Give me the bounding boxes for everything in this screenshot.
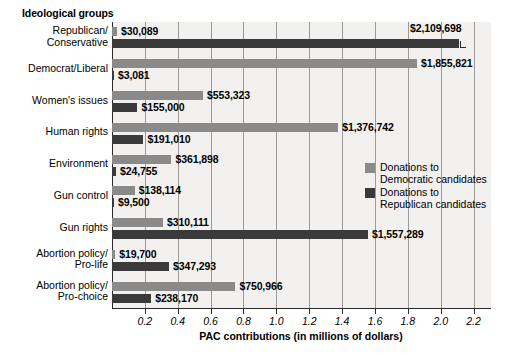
x-tick-mark <box>211 309 212 314</box>
bar-value-democratic: $138,114 <box>139 184 181 196</box>
bar-value-democratic: $553,323 <box>207 89 250 101</box>
x-tick-label: 1.4 <box>335 315 350 327</box>
bar-republican <box>112 135 143 144</box>
bar-republican <box>112 103 137 112</box>
x-tick-label: 0.8 <box>236 315 251 327</box>
bar-republican <box>112 71 114 80</box>
bar-democratic <box>112 218 163 227</box>
bar-democratic <box>112 91 203 100</box>
bar-value-democratic: $310,111 <box>167 216 209 228</box>
x-tick-mark <box>145 309 146 314</box>
category-label-line: Human rights <box>0 126 108 138</box>
x-tick-mark <box>309 309 310 314</box>
legend-label-line: Democratic candidates <box>380 174 487 186</box>
bar-democratic <box>112 186 135 195</box>
bar-value-republican: $24,755 <box>120 165 157 177</box>
legend-label-line: Donations to <box>380 162 487 174</box>
x-tick-label: 1.8 <box>401 315 416 327</box>
bar-republican <box>112 262 169 271</box>
legend-item: Donations toDemocratic candidates <box>365 162 487 185</box>
leader-line <box>460 41 466 48</box>
legend-label: Donations toDemocratic candidates <box>380 162 487 185</box>
legend-swatch-dem <box>365 163 375 173</box>
bar-republican <box>112 198 114 207</box>
category-label: Human rights <box>0 126 108 138</box>
x-tick-mark <box>276 309 277 314</box>
bar-value-republican: $2,109,698 <box>410 22 462 34</box>
bar-value-democratic: $1,855,821 <box>421 57 473 69</box>
x-tick-label: 0.6 <box>203 315 218 327</box>
bar-republican <box>112 167 116 176</box>
category-label: Abortion policy/Pro-choice <box>0 280 108 303</box>
category-label-line: Women's issues <box>0 95 108 107</box>
x-tick-label: 0.4 <box>170 315 185 327</box>
category-label-line: Pro-choice <box>0 291 108 303</box>
bar-value-democratic: $19,700 <box>119 248 156 260</box>
x-tick-mark <box>243 309 244 314</box>
y-axis-title: Ideological groups <box>22 7 114 19</box>
bar-republican <box>112 39 459 48</box>
bar-value-democratic: $361,898 <box>175 153 218 165</box>
category-label: Women's issues <box>0 95 108 107</box>
legend: Donations toDemocratic candidatesDonatio… <box>365 162 487 212</box>
bar-democratic <box>112 123 338 132</box>
bar-republican <box>112 230 368 239</box>
x-tick-mark <box>441 309 442 314</box>
pac-contributions-bar-chart: Ideological groups 0.20.40.60.81.01.21.4… <box>0 0 510 355</box>
category-label: Gun rights <box>0 222 108 234</box>
bar-value-republican: $191,010 <box>147 133 190 145</box>
x-tick-mark <box>342 309 343 314</box>
bar-value-republican: $155,000 <box>141 101 184 113</box>
bar-republican <box>112 294 151 303</box>
x-tick-label: 2.0 <box>433 315 448 327</box>
category-label-line: Environment <box>0 158 108 170</box>
category-label: Environment <box>0 158 108 170</box>
x-tick-label: 1.0 <box>269 315 284 327</box>
category-label: Gun control <box>0 190 108 202</box>
category-label-line: Gun control <box>0 190 108 202</box>
bar-value-republican: $3,081 <box>118 69 150 81</box>
x-tick-label: 0.2 <box>138 315 153 327</box>
x-tick-mark <box>408 309 409 314</box>
category-label-line: Gun rights <box>0 222 108 234</box>
bar-value-republican: $1,557,289 <box>372 228 424 240</box>
bar-value-democratic: $30,089 <box>121 25 158 37</box>
x-tick-label: 1.2 <box>302 315 317 327</box>
x-tick-mark <box>375 309 376 314</box>
legend-item: Donations toRepublican candidates <box>365 187 487 210</box>
category-label: Republican/Conservative <box>0 25 108 48</box>
bar-democratic <box>112 59 417 68</box>
x-tick-label: 1.6 <box>368 315 383 327</box>
category-label: Abortion policy/Pro-life <box>0 248 108 271</box>
legend-label-line: Republican candidates <box>380 199 486 211</box>
category-label: Democrat/Liberal <box>0 63 108 75</box>
category-label-line: Democrat/Liberal <box>0 63 108 75</box>
x-axis-title: PAC contributions (in millions of dollar… <box>112 330 490 342</box>
category-label-line: Conservative <box>0 37 108 49</box>
legend-swatch-rep <box>365 188 375 198</box>
bar-democratic <box>112 282 235 291</box>
bar-value-democratic: $750,966 <box>239 280 282 292</box>
x-tick-mark <box>474 309 475 314</box>
legend-label-line: Donations to <box>380 187 486 199</box>
bar-value-republican: $9,500 <box>118 196 150 208</box>
x-tick-mark <box>178 309 179 314</box>
bar-value-republican: $347,293 <box>173 260 216 272</box>
legend-label: Donations toRepublican candidates <box>380 187 486 210</box>
category-label-line: Pro-life <box>0 259 108 271</box>
bar-democratic <box>112 250 115 259</box>
bar-democratic <box>112 155 171 164</box>
bar-value-democratic: $1,376,742 <box>342 121 394 133</box>
bar-value-republican: $238,170 <box>155 292 198 304</box>
bar-democratic <box>112 27 117 36</box>
x-tick-label: 2.2 <box>466 315 481 327</box>
